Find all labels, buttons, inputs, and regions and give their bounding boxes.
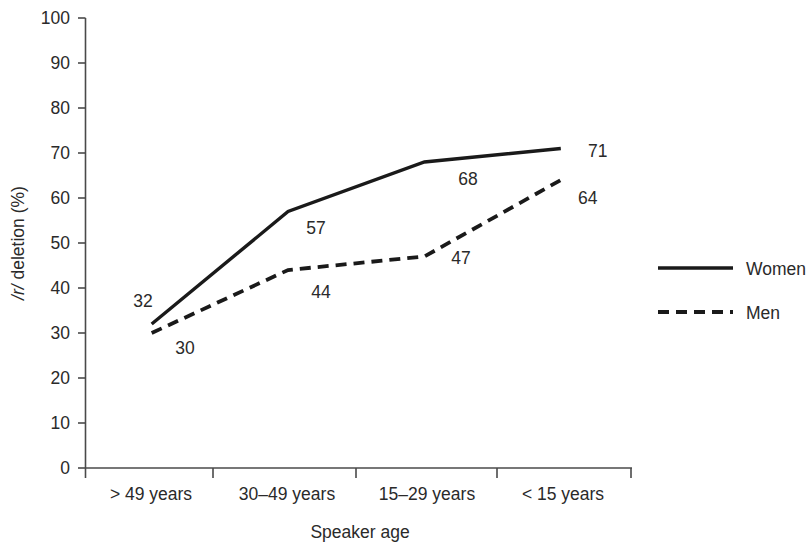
legend-label-women: Women: [746, 259, 806, 279]
y-tick-label: 90: [51, 53, 71, 73]
x-category-label: > 49 years: [110, 484, 192, 504]
y-axis-title: /r/ deletion (%): [8, 186, 28, 301]
data-label: 30: [175, 338, 195, 358]
y-tick-label: 30: [51, 323, 71, 343]
x-category-label: 15–29 years: [379, 484, 476, 504]
data-label: 57: [306, 218, 325, 238]
y-tick-label: 80: [51, 98, 71, 118]
x-category-label: 30–49 years: [239, 484, 336, 504]
data-label: 64: [578, 188, 598, 208]
chart-svg: 100 90 80 70 60 50 40 30 20 10 0 > 49 ye…: [0, 0, 810, 547]
data-label: 71: [588, 141, 607, 161]
y-axis-title-rest: deletion (%): [8, 186, 28, 284]
y-tick-label: 20: [51, 368, 71, 388]
x-category-label: < 15 years: [522, 484, 604, 504]
legend-label-men: Men: [746, 303, 780, 323]
y-tick-label: 10: [51, 413, 71, 433]
svg-text:/r/ deletion (%): /r/ deletion (%): [8, 186, 28, 301]
y-tick-label: 0: [60, 458, 70, 478]
y-tick-label: 40: [51, 278, 71, 298]
x-axis-title: Speaker age: [310, 522, 409, 542]
chart-background: [0, 0, 810, 547]
y-tick-label: 70: [51, 143, 71, 163]
y-tick-label: 50: [51, 233, 71, 253]
chart-figure: 100 90 80 70 60 50 40 30 20 10 0 > 49 ye…: [0, 0, 810, 547]
data-label: 47: [451, 248, 470, 268]
data-label: 32: [133, 291, 152, 311]
data-label: 68: [458, 169, 477, 189]
y-tick-label: 60: [51, 188, 71, 208]
data-label: 44: [311, 282, 331, 302]
y-tick-label: 100: [41, 8, 70, 28]
